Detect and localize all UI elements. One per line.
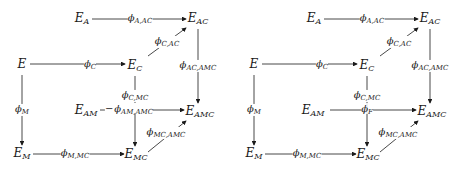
map-phi-a-ac: ϕA,AC (360, 13, 385, 25)
map-phi-m: ϕM (247, 104, 261, 116)
map-phi-m-mc: ϕM,MC (293, 148, 322, 160)
node-e: E (250, 58, 259, 70)
node-e-a: EA (75, 12, 90, 26)
node-e: E (18, 58, 27, 70)
node-e-c: EC (128, 59, 143, 73)
map-phi-c-mc: ϕC,MC (122, 90, 149, 102)
map-phi-c: ϕC (84, 59, 96, 71)
node-e-mc: EMC (356, 148, 379, 162)
node-e-ac: EAC (188, 12, 209, 26)
map-phi-c-ac: ϕC,AC (155, 36, 180, 48)
node-e-amc: EAMC (418, 105, 447, 119)
map-phi-a-ac: ϕA,AC (128, 13, 153, 25)
map-phi-mc-amc: ϕMC,AMC (147, 127, 186, 139)
map-phi-c-mc: ϕC,MC (354, 90, 381, 102)
map-phi-ac-amc: ϕAC,AMC (180, 60, 217, 72)
map-phi-mc-amc: ϕMC,AMC (379, 127, 418, 139)
map-phi-c: ϕC (316, 59, 328, 71)
node-e-amc: EAMC (186, 105, 215, 119)
map-phi-f: ϕF (361, 104, 373, 116)
node-e-am: EAM (302, 104, 325, 118)
map-phi-ac-amc: ϕAC,AMC (412, 60, 449, 72)
node-e-m: EM (14, 147, 31, 161)
map-phi-m-mc: ϕM,MC (61, 148, 90, 160)
map-phi-am-amc: − ϕAM,AMC (105, 104, 153, 116)
node-e-a: EA (307, 12, 322, 26)
node-e-am: EAM (75, 104, 98, 118)
node-e-ac: EAC (420, 12, 441, 26)
node-e-mc: EMC (124, 148, 147, 162)
map-phi-m: ϕM (15, 104, 29, 116)
node-e-m: EM (246, 147, 263, 161)
map-phi-c-ac: ϕC,AC (387, 36, 412, 48)
node-e-c: EC (360, 59, 375, 73)
